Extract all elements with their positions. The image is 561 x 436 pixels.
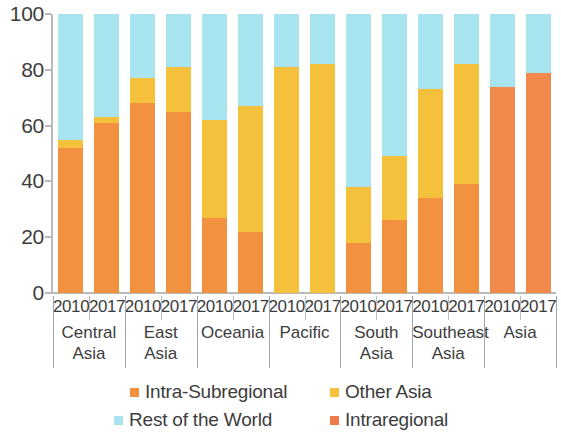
bar-segment-intra-subregional — [94, 123, 119, 293]
y-tick-mark — [45, 13, 51, 15]
bar-segment-intra-subregional — [202, 218, 227, 293]
x-group-label-line: Southeast — [412, 322, 484, 343]
legend-swatch-icon — [130, 388, 139, 397]
bar-segment-intra-subregional — [166, 112, 191, 293]
chart-legend: Intra-SubregionalOther AsiaRest of the W… — [0, 380, 561, 436]
x-year-label: 2017 — [161, 294, 197, 320]
bar-asia-2010 — [490, 14, 515, 293]
plot-area: 020406080100 — [0, 0, 561, 300]
x-group-label-line: East — [125, 322, 197, 343]
x-year-label: 2010 — [269, 294, 305, 320]
bar-segment-rest-of-the-world — [274, 14, 299, 67]
legend-item-rest-of-the-world[interactable]: Rest of the World — [114, 408, 272, 432]
legend-label: Rest of the World — [129, 408, 272, 432]
legend-item-intra-subregional[interactable]: Intra-Subregional — [130, 380, 287, 404]
x-group-label-line: Asia — [340, 343, 412, 364]
bar-pacific-2010 — [274, 14, 299, 293]
bar-south-asia-2017 — [382, 14, 407, 293]
x-group-label-oceania: Oceania — [197, 322, 269, 343]
bar-segment-rest-of-the-world — [382, 14, 407, 156]
bar-segment-other-asia — [238, 106, 263, 232]
bar-segment-rest-of-the-world — [346, 14, 371, 187]
x-group-label-line: Asia — [484, 322, 556, 343]
x-group-label-pacific: Pacific — [269, 322, 341, 343]
bar-east-asia-2010 — [130, 14, 155, 293]
bar-segment-rest-of-the-world — [418, 14, 443, 89]
bar-east-asia-2017 — [166, 14, 191, 293]
legend-label: Other Asia — [345, 380, 432, 404]
bars-container — [53, 14, 556, 293]
bar-segment-rest-of-the-world — [202, 14, 227, 120]
y-tick-mark — [45, 69, 51, 71]
x-group-label-line: Pacific — [269, 322, 341, 343]
bar-southeast-asia-2010 — [418, 14, 443, 293]
x-year-label: 2010 — [340, 294, 376, 320]
x-group-label-asia: Asia — [484, 322, 556, 343]
x-year-label: 2017 — [233, 294, 269, 320]
year-separator — [376, 296, 377, 320]
bar-segment-other-asia — [202, 120, 227, 218]
legend-swatch-icon — [114, 416, 123, 425]
bar-segment-intra-subregional — [418, 198, 443, 293]
bar-segment-other-asia — [274, 67, 299, 293]
bar-segment-other-asia — [58, 140, 83, 148]
bar-segment-other-asia — [418, 89, 443, 198]
bar-pacific-2017 — [310, 14, 335, 293]
year-separator — [89, 296, 90, 320]
x-year-label: 2017 — [305, 294, 341, 320]
x-group-label-line: South — [340, 322, 412, 343]
y-tick-mark — [45, 125, 51, 127]
year-separator — [448, 296, 449, 320]
x-group-label-line: Central — [53, 322, 125, 343]
x-year-label: 2010 — [53, 294, 89, 320]
bar-segment-other-asia — [346, 187, 371, 243]
bar-segment-intra-subregional — [58, 148, 83, 293]
bar-segment-other-asia — [130, 78, 155, 103]
x-group-label-central-asia: CentralAsia — [53, 322, 125, 364]
y-tick-label: 80 — [0, 59, 44, 80]
x-group-label-line: Asia — [412, 343, 484, 364]
legend-swatch-icon — [330, 416, 339, 425]
y-tick-label: 20 — [0, 226, 44, 247]
bar-segment-rest-of-the-world — [454, 14, 479, 64]
bar-segment-rest-of-the-world — [166, 14, 191, 67]
y-tick-mark — [45, 236, 51, 238]
x-year-label: 2017 — [89, 294, 125, 320]
bar-segment-rest-of-the-world — [94, 14, 119, 117]
x-year-label: 2010 — [484, 294, 520, 320]
bar-segment-other-asia — [166, 67, 191, 112]
legend-swatch-icon — [330, 388, 339, 397]
y-axis: 020406080100 — [0, 0, 44, 300]
bar-segment-rest-of-the-world — [526, 14, 551, 73]
x-group-label-line: Asia — [125, 343, 197, 364]
bar-segment-other-asia — [454, 64, 479, 184]
y-tick-label: 60 — [0, 115, 44, 136]
legend-label: Intra-Subregional — [145, 380, 287, 404]
bar-south-asia-2010 — [346, 14, 371, 293]
bar-oceania-2017 — [238, 14, 263, 293]
bar-oceania-2010 — [202, 14, 227, 293]
bar-segment-intraregional — [526, 73, 551, 293]
bar-segment-rest-of-the-world — [310, 14, 335, 64]
x-group-label-line: Oceania — [197, 322, 269, 343]
y-tick-mark — [45, 180, 51, 182]
legend-item-intraregional[interactable]: Intraregional — [330, 408, 448, 432]
bar-segment-intra-subregional — [346, 243, 371, 293]
x-year-label: 2017 — [376, 294, 412, 320]
x-year-label: 2010 — [197, 294, 233, 320]
bar-segment-rest-of-the-world — [238, 14, 263, 106]
bar-segment-intra-subregional — [382, 220, 407, 293]
bar-segment-intraregional — [490, 87, 515, 293]
x-year-label: 2017 — [448, 294, 484, 320]
legend-item-other-asia[interactable]: Other Asia — [330, 380, 432, 404]
bar-segment-other-asia — [382, 156, 407, 220]
bar-segment-rest-of-the-world — [490, 14, 515, 87]
bar-segment-intra-subregional — [454, 184, 479, 293]
bar-southeast-asia-2017 — [454, 14, 479, 293]
x-year-label: 2010 — [125, 294, 161, 320]
bar-segment-rest-of-the-world — [130, 14, 155, 78]
bar-asia-2017 — [526, 14, 551, 293]
x-year-label: 2010 — [412, 294, 448, 320]
legend-label: Intraregional — [345, 408, 448, 432]
y-tick-label: 40 — [0, 170, 44, 191]
